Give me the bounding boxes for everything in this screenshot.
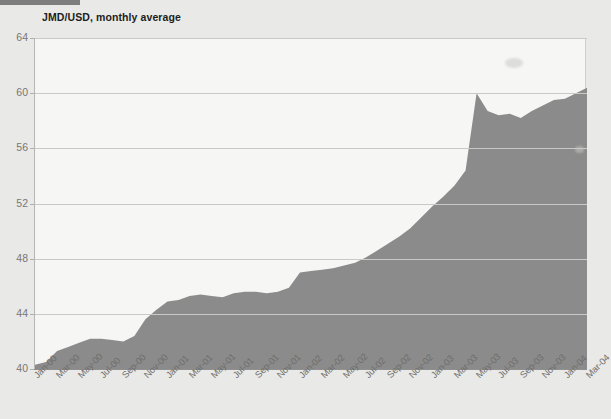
y-axis-tick-label: 52	[2, 197, 28, 209]
scan-artifact	[505, 58, 523, 68]
scan-artifact-2	[575, 146, 584, 153]
plot-area	[34, 38, 586, 369]
y-axis-tick-mark	[30, 259, 34, 260]
chart-figure: 40444852566064Jan-00Mar-00May-00Jul-00Se…	[0, 0, 611, 419]
gridline	[35, 314, 587, 315]
y-axis-tick-mark	[30, 38, 34, 39]
y-axis-tick-label: 64	[2, 31, 28, 43]
gridline	[35, 148, 587, 149]
gridline	[35, 204, 587, 205]
gridline	[35, 38, 587, 39]
y-axis-tick-mark	[30, 93, 34, 94]
y-axis-tick-mark	[30, 148, 34, 149]
y-axis-tick-label: 44	[2, 307, 28, 319]
y-axis-tick-mark	[30, 204, 34, 205]
y-axis-tick-label: 48	[2, 252, 28, 264]
gridline	[35, 259, 587, 260]
x-axis-tick-label: Mar-04	[584, 353, 611, 380]
y-axis-tick-label: 40	[2, 362, 28, 374]
y-axis-tick-mark	[30, 314, 34, 315]
y-axis-tick-label: 60	[2, 86, 28, 98]
gridline	[35, 93, 587, 94]
y-axis-tick-label: 56	[2, 141, 28, 153]
